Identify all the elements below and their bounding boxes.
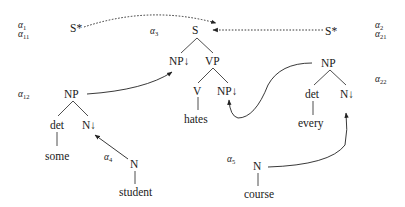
node-n-course: N [253, 160, 262, 172]
svg-text:α4: α4 [104, 152, 113, 163]
derivation-diagram: α1 α11 α2 α21 α3 α12 α22 α4 α5 [0, 0, 405, 207]
svg-text:α12: α12 [18, 89, 30, 100]
label-alpha-12: α12 [18, 89, 30, 100]
label-alpha-4: α4 [104, 152, 113, 163]
label-alpha-3: α3 [150, 26, 158, 37]
node-np-right: NP [321, 57, 336, 69]
node-n-subst-left: N↓ [82, 119, 96, 131]
word-course: course [244, 188, 274, 200]
label-alpha-22: α22 [375, 74, 387, 85]
node-s-star-left: S* [70, 22, 82, 34]
word-some: some [45, 150, 69, 162]
svg-text:α5: α5 [227, 154, 235, 165]
node-np-subst-object: NP↓ [217, 85, 237, 97]
node-np-subst-subject: NP↓ [169, 55, 189, 67]
word-hates: hates [184, 113, 208, 125]
node-det-right: det [305, 88, 320, 100]
label-alpha-5: α5 [227, 154, 235, 165]
node-n-student: N [130, 158, 139, 170]
tree-nodes: S* S* S NP↓ VP V NP↓ hates NP det N↓ som… [45, 22, 354, 200]
node-vp: VP [205, 55, 220, 67]
node-det-left: det [50, 119, 65, 131]
node-s-star-right: S* [325, 25, 337, 37]
substitution-arrow-subject [87, 72, 172, 94]
node-np-left: NP [64, 88, 79, 100]
substitution-arrow-object [229, 63, 312, 118]
word-student: student [119, 186, 153, 198]
node-n-subst-right: N↓ [340, 88, 354, 100]
svg-text:α3: α3 [150, 26, 158, 37]
svg-text:α22: α22 [375, 74, 387, 85]
node-s-root: S [192, 24, 198, 36]
node-v: V [193, 85, 202, 97]
word-every: every [298, 117, 324, 130]
